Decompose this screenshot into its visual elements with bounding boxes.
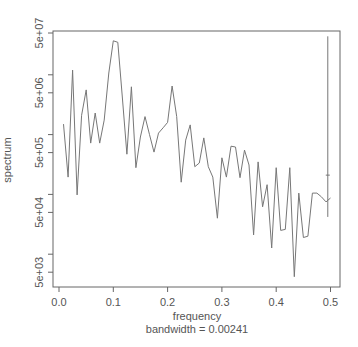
x-axis-title: frequency [173, 310, 222, 322]
y-axis-title: spectrum [1, 137, 13, 182]
plot-frame [53, 31, 340, 287]
x-tick-label: 0.4 [269, 296, 284, 308]
y-tick-label: 5e+06 [33, 77, 45, 108]
spectrum-line [64, 41, 331, 277]
x-tick-label: 0.5 [323, 296, 338, 308]
bandwidth-label: bandwidth = 0.00241 [146, 323, 248, 335]
x-tick-label: 0.3 [214, 296, 229, 308]
x-tick-label: 0.1 [106, 296, 121, 308]
plot-box [53, 31, 340, 287]
y-tick-label: 5e+07 [33, 18, 45, 49]
confidence-interval-bar [326, 36, 330, 217]
series-layer [64, 41, 331, 277]
y-tick-label: 5e+05 [33, 137, 45, 168]
x-axis: 0.00.10.20.30.40.5 [51, 287, 338, 308]
y-axis: 5e+035e+045e+055e+065e+07 [33, 18, 53, 288]
y-tick-label: 5e+03 [33, 257, 45, 288]
x-tick-label: 0.2 [160, 296, 175, 308]
x-tick-label: 0.0 [51, 296, 66, 308]
y-tick-label: 5e+04 [33, 197, 45, 228]
spectrum-chart: 5e+035e+045e+055e+065e+07 0.00.10.20.30.… [0, 0, 358, 347]
